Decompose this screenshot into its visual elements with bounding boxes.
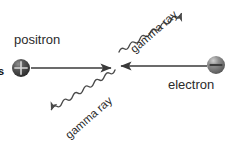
positron-label: positron (14, 33, 60, 46)
cut-off-text-fragment: s (0, 66, 4, 77)
electron-label: electron (168, 78, 214, 91)
electron-particle (207, 56, 225, 74)
annihilation-diagram: s positron electron gamma ray gamma ray (0, 0, 229, 143)
positron-particle (12, 59, 30, 77)
diagram-canvas (0, 0, 229, 143)
